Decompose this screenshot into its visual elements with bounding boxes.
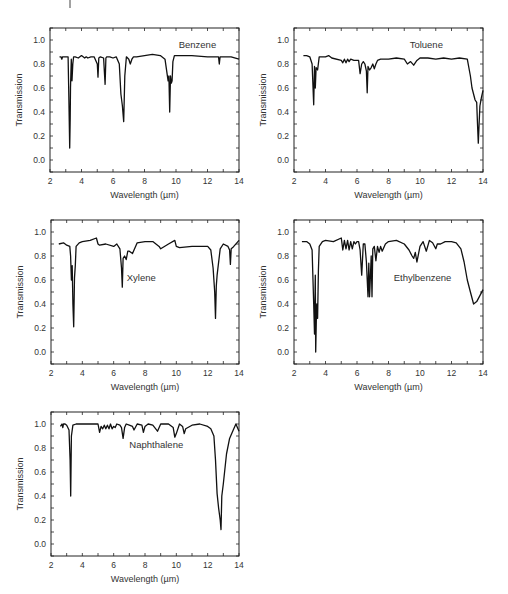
y-tick-label: 0.8	[277, 251, 289, 261]
x-tick-label: 12	[203, 368, 213, 378]
x-tick-label: 4	[323, 176, 328, 186]
y-tick-label: 0.6	[33, 83, 45, 93]
x-tick-label: 4	[79, 176, 84, 186]
x-tick-label: 14	[234, 368, 244, 378]
x-tick-label: 10	[415, 368, 425, 378]
x-axis-label: Wavelength (µm)	[354, 190, 422, 200]
x-tick-label: 12	[203, 560, 213, 570]
y-tick-label: 1.0	[33, 35, 45, 45]
y-tick-label: 0.6	[277, 275, 289, 285]
x-tick-label: 14	[234, 560, 244, 570]
x-tick-label: 8	[142, 176, 147, 186]
y-tick-label: 0.0	[34, 539, 46, 549]
compound-label: Ethylbenzene	[394, 272, 452, 283]
y-tick-label: 0.0	[34, 347, 46, 357]
x-tick-label: 8	[143, 368, 148, 378]
y-tick-label: 0.6	[34, 467, 46, 477]
y-tick-label: 0.2	[277, 131, 289, 141]
x-tick-label: 6	[111, 368, 116, 378]
y-tick-label: 0.2	[34, 323, 46, 333]
plot-frame	[51, 412, 239, 556]
compound-label: Xylene	[127, 272, 156, 283]
x-tick-label: 8	[386, 176, 391, 186]
x-tick-label: 10	[172, 368, 182, 378]
x-tick-label: 8	[143, 560, 148, 570]
spectrum-line	[60, 54, 240, 148]
plot-frame	[294, 28, 483, 172]
x-axis-label: Wavelength (µm)	[111, 382, 179, 392]
y-tick-label: 1.0	[34, 227, 46, 237]
x-tick-label: 4	[80, 368, 85, 378]
x-tick-label: 6	[111, 560, 116, 570]
ir-spectra-figure: 24681012140.00.20.40.60.81.0Wavelength (…	[0, 0, 508, 594]
y-tick-label: 0.6	[277, 83, 289, 93]
y-tick-label: 0.8	[33, 59, 45, 69]
x-tick-label: 12	[447, 176, 457, 186]
y-tick-label: 1.0	[34, 419, 46, 429]
y-tick-label: 1.0	[277, 227, 289, 237]
panel-naphthalene: 24681012140.00.20.40.60.81.0Wavelength (…	[15, 412, 244, 584]
spectrum-line	[303, 56, 483, 144]
x-tick-label: 2	[48, 176, 53, 186]
x-tick-label: 6	[355, 368, 360, 378]
x-tick-label: 2	[292, 368, 297, 378]
y-axis-label: Transmission	[15, 457, 25, 510]
y-tick-label: 1.0	[277, 35, 289, 45]
panel-toluene: 24681012140.00.20.40.60.81.0Wavelength (…	[258, 28, 488, 200]
y-tick-label: 0.4	[33, 107, 45, 117]
y-tick-label: 0.4	[34, 491, 46, 501]
y-tick-label: 0.4	[277, 107, 289, 117]
spectrum-line	[302, 238, 483, 352]
x-tick-label: 12	[447, 368, 457, 378]
x-tick-label: 10	[172, 560, 182, 570]
x-tick-label: 8	[386, 368, 391, 378]
x-tick-label: 10	[415, 176, 425, 186]
x-tick-label: 14	[234, 176, 244, 186]
x-tick-label: 6	[111, 176, 116, 186]
x-axis-label: Wavelength (µm)	[110, 190, 178, 200]
y-axis-label: Transmission	[14, 73, 24, 126]
x-tick-label: 14	[478, 176, 488, 186]
x-tick-label: 14	[478, 368, 488, 378]
y-axis-label: Transmission	[258, 265, 268, 318]
panel-xylene: 24681012140.00.20.40.60.81.0Wavelength (…	[15, 220, 244, 392]
y-axis-label: Transmission	[15, 265, 25, 318]
y-tick-label: 0.0	[277, 155, 289, 165]
y-tick-label: 0.8	[34, 251, 46, 261]
y-tick-label: 0.0	[33, 155, 45, 165]
x-tick-label: 4	[80, 560, 85, 570]
y-tick-label: 0.0	[277, 347, 289, 357]
x-tick-label: 2	[49, 560, 54, 570]
panel-benzene: 24681012140.00.20.40.60.81.0Wavelength (…	[14, 28, 244, 200]
x-tick-label: 2	[292, 176, 297, 186]
y-tick-label: 0.2	[33, 131, 45, 141]
compound-label: Toluene	[410, 39, 443, 50]
y-tick-label: 0.8	[34, 443, 46, 453]
x-axis-label: Wavelength (µm)	[111, 574, 179, 584]
y-tick-label: 0.2	[277, 323, 289, 333]
x-axis-label: Wavelength (µm)	[354, 382, 422, 392]
x-tick-label: 2	[49, 368, 54, 378]
x-tick-label: 4	[323, 368, 328, 378]
x-tick-label: 10	[171, 176, 181, 186]
y-tick-label: 0.6	[34, 275, 46, 285]
panel-ethylbenzene: 24681012140.00.20.40.60.81.0Wavelength (…	[258, 220, 488, 392]
compound-label: Naphthalene	[129, 439, 183, 450]
y-tick-label: 0.2	[34, 515, 46, 525]
y-tick-label: 0.8	[277, 59, 289, 69]
y-axis-label: Transmission	[258, 73, 268, 126]
y-tick-label: 0.4	[277, 299, 289, 309]
compound-label: Benzene	[179, 39, 217, 50]
y-tick-label: 0.4	[34, 299, 46, 309]
x-tick-label: 6	[355, 176, 360, 186]
x-tick-label: 12	[203, 176, 213, 186]
